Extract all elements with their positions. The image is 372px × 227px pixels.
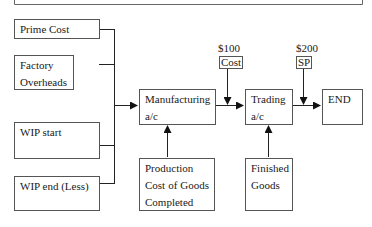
manufacturing-account-label: Manufacturing a/c	[145, 93, 210, 122]
trading-account-label: Trading a/c	[251, 93, 285, 122]
sp-tag: SP	[296, 56, 312, 69]
trading-account-box: Trading a/c	[245, 89, 293, 125]
finished-goods-label: Finished Goods	[251, 162, 289, 191]
prime-cost-box: Prime Cost	[14, 19, 100, 39]
finished-goods-box: Finished Goods	[245, 158, 293, 211]
manufacturing-account-box: Manufacturing a/c	[139, 89, 216, 125]
wip-end-box: WIP end (Less)	[14, 176, 100, 211]
cost-tag: Cost	[219, 56, 243, 69]
sp-amount: $200	[296, 42, 318, 54]
production-cost-label: Production Cost of Goods Completed	[145, 162, 209, 208]
wip-start-box: WIP start	[14, 122, 100, 159]
end-box: END	[322, 89, 363, 125]
prime-cost-label: Prime Cost	[20, 23, 69, 35]
factory-overheads-box: Factory Overheads	[14, 55, 74, 90]
production-cost-box: Production Cost of Goods Completed	[139, 158, 215, 211]
end-label: END	[328, 93, 351, 105]
wip-end-label: WIP end (Less)	[20, 180, 89, 192]
wip-start-label: WIP start	[20, 126, 61, 138]
top-frame-edge	[15, 0, 363, 5]
cost-amount: $100	[218, 42, 240, 54]
factory-overheads-label: Factory Overheads	[20, 59, 67, 88]
